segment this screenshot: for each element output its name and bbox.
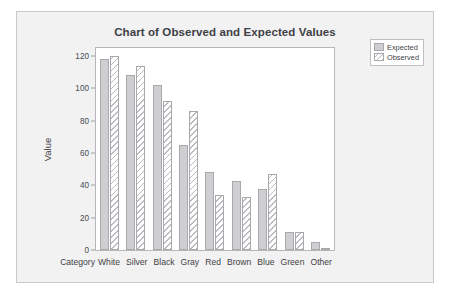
bar-group	[126, 48, 145, 250]
x-axis-tick-label-blue: Blue	[257, 252, 274, 267]
bar-expected-silver[interactable]	[126, 75, 135, 250]
bar-group	[258, 48, 277, 250]
bar-observed-green[interactable]	[295, 232, 304, 250]
bar-observed-gray[interactable]	[189, 111, 198, 250]
bar-observed-red[interactable]	[215, 195, 224, 250]
bar-expected-black[interactable]	[153, 85, 162, 250]
x-axis-tick-label-other: Other	[310, 252, 332, 267]
x-axis-tick-label-black: Black	[154, 252, 175, 267]
bar-observed-black[interactable]	[163, 101, 172, 250]
bar-expected-other[interactable]	[311, 242, 320, 250]
chart-legend: ExpectedObserved	[370, 39, 424, 66]
bar-group	[285, 48, 304, 250]
bar-group	[100, 48, 119, 250]
bar-group	[205, 48, 224, 250]
x-axis-tick-label-gray: Gray	[181, 252, 200, 267]
chart-figure: Chart of Observed and Expected Values Va…	[16, 11, 434, 283]
y-axis-tick-label: 120	[75, 52, 89, 61]
legend-label: Expected	[387, 43, 418, 52]
x-axis-tick-label-green: Green	[281, 252, 305, 267]
x-axis-tick-label-silver: Silver	[126, 252, 148, 267]
bar-observed-blue[interactable]	[268, 174, 277, 250]
bar-expected-blue[interactable]	[258, 189, 267, 250]
bar-expected-red[interactable]	[205, 172, 214, 250]
bar-observed-brown[interactable]	[242, 197, 251, 250]
legend-swatch-expected-icon	[374, 43, 384, 51]
bar-expected-gray[interactable]	[179, 145, 188, 250]
legend-item-expected[interactable]: Expected	[374, 42, 419, 52]
x-axis-tick-label-white: White	[98, 252, 120, 267]
y-axis-tick-label: 0	[84, 246, 89, 255]
bars-layer	[96, 48, 334, 250]
x-axis-tick-label-brown: Brown	[227, 252, 251, 267]
bar-observed-other[interactable]	[321, 248, 330, 250]
y-axis-title-text: Value	[43, 137, 54, 161]
y-axis-title: Value	[41, 47, 55, 251]
legend-label: Observed	[387, 53, 419, 62]
y-axis-tick-label: 60	[80, 149, 89, 158]
y-axis-tick-label: 20	[80, 213, 89, 222]
bar-group	[153, 48, 172, 250]
bar-group	[179, 48, 198, 250]
bar-observed-silver[interactable]	[136, 66, 145, 250]
bar-expected-green[interactable]	[285, 232, 294, 250]
legend-swatch-observed-icon	[374, 53, 384, 61]
bar-observed-white[interactable]	[110, 56, 119, 250]
y-axis: 020406080100120	[57, 47, 95, 251]
plot-area	[95, 47, 335, 251]
bar-group	[232, 48, 251, 250]
bar-expected-white[interactable]	[100, 59, 109, 250]
x-axis-title: Category	[29, 257, 95, 267]
y-axis-tick-label: 40	[80, 181, 89, 190]
x-axis-tick-label-red: Red	[205, 252, 221, 267]
chart-title: Chart of Observed and Expected Values	[17, 26, 433, 38]
bar-group	[311, 48, 330, 250]
legend-item-observed[interactable]: Observed	[374, 52, 419, 62]
x-axis: WhiteSilverBlackGrayRedBrownBlueGreenOth…	[95, 252, 335, 276]
y-axis-tick-label: 100	[75, 84, 89, 93]
bar-expected-brown[interactable]	[232, 181, 241, 250]
y-axis-tick-label: 80	[80, 116, 89, 125]
